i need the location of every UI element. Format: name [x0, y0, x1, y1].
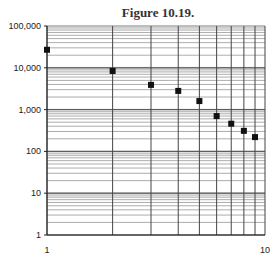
y-tick-label: 100,000 [8, 21, 41, 31]
axes [44, 26, 265, 235]
data-point-marker [241, 128, 247, 134]
grid-lines [47, 25, 265, 235]
y-tick-label: 1 [36, 230, 41, 240]
y-tick-label: 10,000 [13, 63, 41, 73]
data-point-marker [44, 47, 50, 53]
data-point-marker [214, 113, 220, 119]
data-point-marker [252, 134, 258, 140]
data-point-marker [175, 88, 181, 94]
y-tick-label: 100 [26, 146, 41, 156]
y-tick-label: 1,000 [18, 105, 41, 115]
chart-plot: 1101001,00010,000100,000110 [0, 0, 276, 259]
data-point-marker [228, 121, 234, 127]
data-point-marker [148, 82, 154, 88]
data-point-marker [196, 98, 202, 104]
x-tick-label: 1 [44, 245, 49, 255]
y-tick-label: 10 [31, 188, 41, 198]
data-point-marker [110, 68, 116, 74]
x-tick-label: 10 [260, 245, 270, 255]
decade-band [47, 25, 265, 31]
